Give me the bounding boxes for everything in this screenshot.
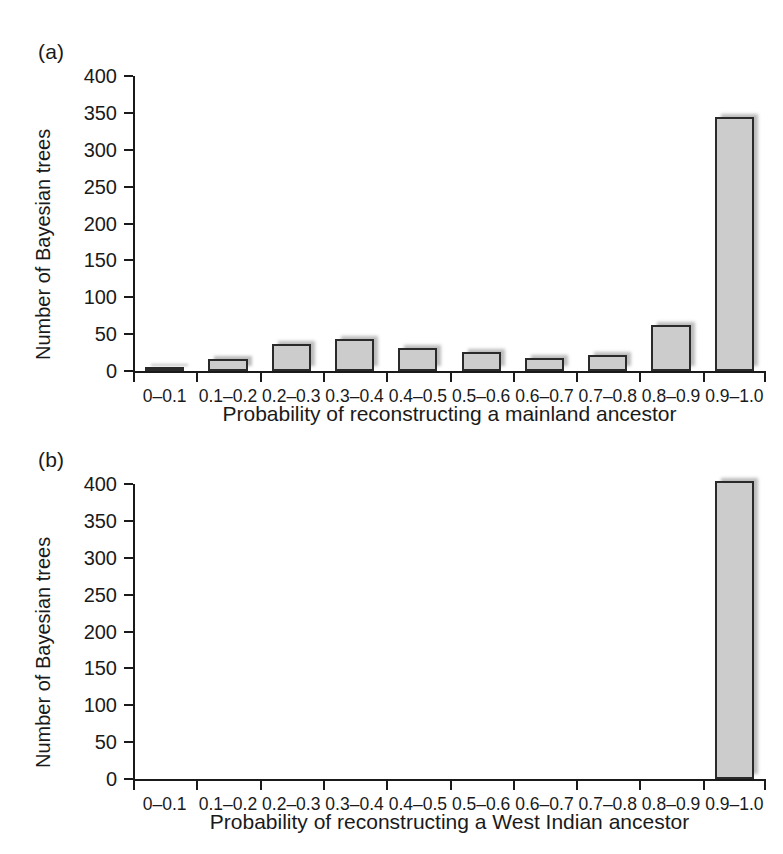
y-tick-label: 0	[106, 768, 117, 791]
x-tick	[639, 781, 641, 790]
panel-b-x-axis-title: Probability of reconstructing a West Ind…	[133, 810, 766, 834]
x-tick	[764, 781, 766, 790]
y-tick-label: 400	[84, 65, 117, 88]
bar	[208, 359, 247, 371]
x-tick	[764, 373, 766, 382]
y-tick: 350	[124, 112, 133, 114]
y-tick: 300	[124, 149, 133, 151]
y-tick-label: 350	[84, 509, 117, 532]
y-tick: 100	[124, 296, 133, 298]
panel-b: (b) Number of Bayesian trees 05010015020…	[0, 422, 783, 854]
panel-a-label: (a)	[38, 40, 64, 64]
y-tick: 300	[124, 557, 133, 559]
bar	[715, 117, 754, 371]
bar	[145, 367, 184, 371]
x-tick	[133, 781, 135, 790]
figure-container: (a) Number of Bayesian trees 05010015020…	[0, 0, 783, 854]
x-tick	[639, 373, 641, 382]
y-tick-label: 200	[84, 620, 117, 643]
x-tick	[260, 373, 262, 382]
y-tick: 200	[124, 223, 133, 225]
x-tick	[703, 373, 705, 382]
panel-a-y-axis-line	[133, 76, 135, 371]
y-tick: 400	[124, 483, 133, 485]
panel-b-plot-area: 050100150200250300350400 0–0.10.1–0.20.2…	[133, 484, 766, 779]
y-tick: 0	[124, 370, 133, 372]
y-tick-label: 50	[95, 323, 117, 346]
y-tick: 150	[124, 259, 133, 261]
x-tick	[323, 373, 325, 382]
y-tick-label: 100	[84, 694, 117, 717]
y-tick: 50	[124, 741, 133, 743]
x-tick	[576, 781, 578, 790]
y-tick-label: 50	[95, 731, 117, 754]
y-tick: 50	[124, 333, 133, 335]
y-tick: 250	[124, 186, 133, 188]
y-tick: 250	[124, 594, 133, 596]
y-tick: 150	[124, 667, 133, 669]
panel-a: (a) Number of Bayesian trees 05010015020…	[0, 0, 783, 432]
x-tick	[323, 781, 325, 790]
x-tick	[386, 373, 388, 382]
y-tick-label: 200	[84, 212, 117, 235]
panel-b-y-axis-title: Number of Bayesian trees	[32, 537, 55, 768]
x-tick	[703, 781, 705, 790]
x-tick	[450, 373, 452, 382]
x-tick	[576, 373, 578, 382]
y-tick-label: 400	[84, 473, 117, 496]
panel-a-y-axis-title: Number of Bayesian trees	[32, 129, 55, 360]
y-tick: 350	[124, 520, 133, 522]
y-tick-label: 300	[84, 546, 117, 569]
x-tick	[513, 373, 515, 382]
panel-b-label: (b)	[38, 448, 64, 472]
y-tick-label: 150	[84, 249, 117, 272]
y-tick: 400	[124, 75, 133, 77]
x-tick	[260, 781, 262, 790]
bar	[651, 325, 690, 371]
panel-b-y-axis-line	[133, 484, 135, 779]
bar	[715, 481, 754, 779]
bar	[525, 358, 564, 371]
x-tick	[196, 373, 198, 382]
x-tick	[196, 781, 198, 790]
x-tick	[513, 781, 515, 790]
panel-a-plot-area: 050100150200250300350400 0–0.10.1–0.20.2…	[133, 76, 766, 371]
y-tick-label: 300	[84, 138, 117, 161]
y-tick-label: 0	[106, 360, 117, 383]
y-tick: 0	[124, 778, 133, 780]
bar	[588, 355, 627, 371]
y-tick: 200	[124, 631, 133, 633]
y-tick-label: 250	[84, 583, 117, 606]
bar	[398, 348, 437, 371]
y-tick-label: 350	[84, 101, 117, 124]
x-tick	[386, 781, 388, 790]
bar	[272, 344, 311, 371]
bar	[335, 339, 374, 371]
y-tick-label: 150	[84, 657, 117, 680]
x-tick	[450, 781, 452, 790]
y-tick: 100	[124, 704, 133, 706]
y-tick-label: 250	[84, 175, 117, 198]
y-tick-label: 100	[84, 286, 117, 309]
bar	[462, 352, 501, 371]
x-tick	[133, 373, 135, 382]
